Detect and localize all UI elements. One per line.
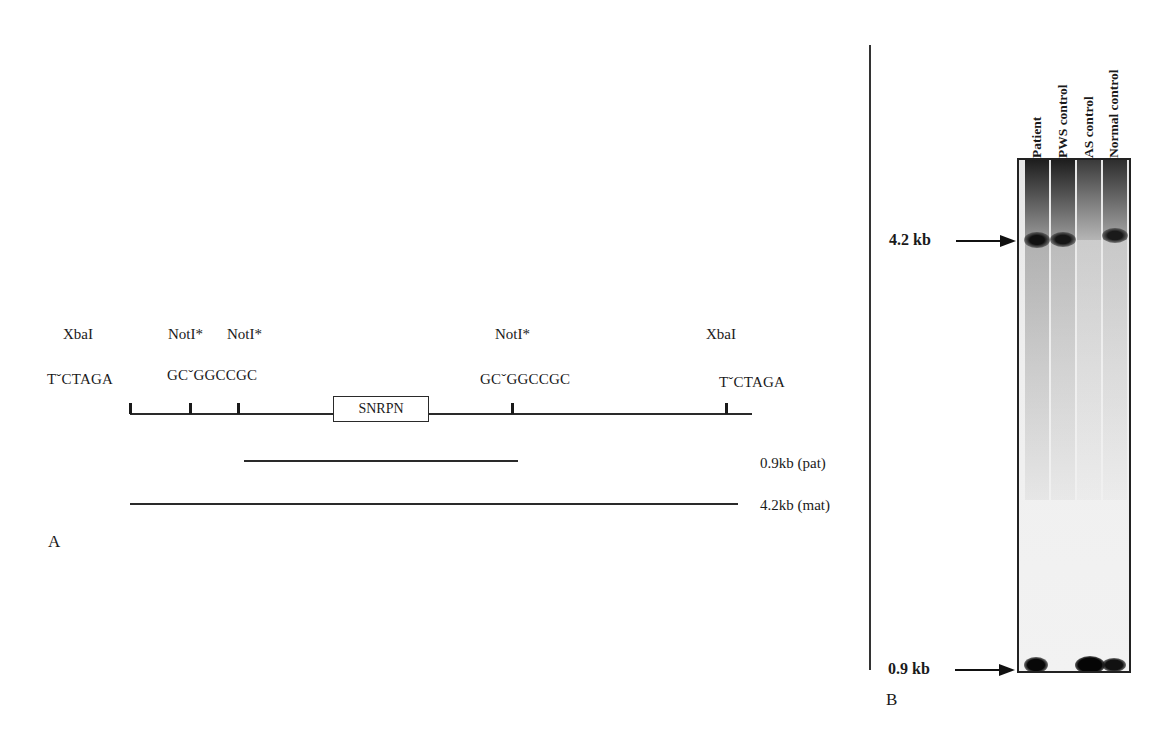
noti-3-site-marker <box>511 403 514 414</box>
noti-2-site-marker <box>237 403 240 414</box>
size-marker-4-2kb-arrow-shaft <box>956 240 1004 242</box>
gel-lane-pws-control <box>1051 160 1075 671</box>
panel-b-letter: B <box>886 690 897 710</box>
noti-1-label: NotI* <box>168 327 203 342</box>
paternal-fragment-label: 0.9kb (pat) <box>760 456 826 471</box>
genomic-line <box>130 413 752 415</box>
xbai-left-sequence: TˇCTAGA <box>47 372 113 387</box>
maternal-fragment-label: 4.2kb (mat) <box>760 498 830 513</box>
noti-1-site-marker <box>189 403 192 414</box>
panel-divider <box>869 45 871 670</box>
xbai-right-site-marker <box>725 403 728 414</box>
lane-label-pws-control: PWS control <box>1055 84 1071 158</box>
xbai-left-label: XbaI <box>63 327 93 342</box>
size-marker-4-2kb-label: 4.2 kb <box>889 231 931 249</box>
xbai-right-label: XbaI <box>706 327 736 342</box>
size-marker-0-9kb-arrow-shaft <box>955 669 1003 671</box>
noti-right-sequence: GCˇGGCCGC <box>480 372 570 387</box>
noti-2-label: NotI* <box>227 327 262 342</box>
snrpn-gene-box: SNRPN <box>333 396 429 422</box>
lane-label-normal-control: Normal control <box>1106 69 1122 158</box>
arrow-right-icon <box>999 664 1015 676</box>
size-marker-0-9kb-label: 0.9 kb <box>888 660 930 678</box>
gel-lane-normal-control <box>1103 160 1127 671</box>
xbai-left-site-marker <box>129 403 132 414</box>
maternal-fragment-line <box>130 503 738 505</box>
snrpn-gene-label: SNRPN <box>358 401 403 417</box>
noti-left-sequence: GCˇGGCCGC <box>167 368 257 383</box>
xbai-right-sequence: TˇCTAGA <box>719 375 785 390</box>
arrow-right-icon <box>1000 235 1016 247</box>
gel-lane-patient <box>1025 160 1049 671</box>
southern-blot-gel <box>1017 158 1131 673</box>
lane-label-as-control: AS control <box>1081 96 1097 158</box>
gel-lane-as-control <box>1077 160 1101 671</box>
lane-label-patient: Patient <box>1029 117 1045 158</box>
paternal-fragment-line <box>244 460 518 462</box>
panel-a-letter: A <box>48 532 60 552</box>
noti-3-label: NotI* <box>495 327 530 342</box>
